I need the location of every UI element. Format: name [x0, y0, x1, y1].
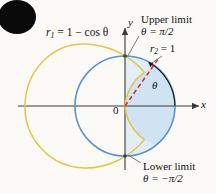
lower-limit-title: Lower limit [143, 160, 195, 172]
upper-limit-label: Upper limit θ = π/2 [141, 13, 192, 38]
cardioid-equation-rhs: = 1 − cos θ [57, 26, 108, 38]
upper-limit-leader [128, 36, 140, 57]
circle-equation-rhs: = 1 [161, 42, 175, 54]
origin-label: 0 [113, 104, 119, 116]
x-axis-arrowhead [192, 103, 199, 109]
black-ink-blob-icon [0, 0, 36, 34]
theta-angle-label: θ [152, 79, 157, 91]
y-axis-arrowhead [122, 28, 128, 35]
circle-equation-label: r2 = 1 [150, 42, 175, 56]
upper-limit-point [123, 54, 127, 58]
circle-subscript: 2 [154, 47, 158, 56]
y-axis-label: y [128, 16, 133, 28]
lower-limit-point [123, 154, 127, 158]
upper-limit-title: Upper limit [141, 13, 192, 25]
lower-limit-value: θ = −π/2 [143, 172, 195, 184]
polar-curve-figure: r1 = 1 − cos θ r2 = 1 Upper limit θ = π/… [0, 0, 216, 194]
cardioid-equation-label: r1 = 1 − cos θ [46, 26, 108, 40]
cardioid-subscript: 1 [50, 31, 54, 40]
lower-limit-label: Lower limit θ = −π/2 [143, 160, 195, 185]
x-axis-label: x [201, 98, 206, 110]
upper-limit-value: θ = π/2 [141, 25, 192, 37]
lower-limit-leader [128, 155, 141, 163]
